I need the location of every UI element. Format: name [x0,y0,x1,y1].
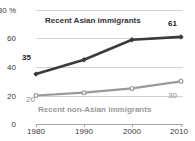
nonasian-point-1990 [82,91,86,95]
line-chart: 80 % 60 40 20 0 1980 1990 2000 2010 Rece… [0,0,195,141]
nonasian-point-2010 [179,79,183,83]
data-label-nonasian-1980: 20 [26,95,35,104]
series-label-asian: Recent Asian immigrants [45,16,141,25]
data-label-asian-2010: 61 [168,19,177,28]
data-label-nonasian-2010: 30 [168,91,177,100]
asian-line [36,37,181,74]
nonasian-line [36,81,181,95]
series-label-nonasian: Recent non-Asian immigrants [38,105,151,114]
nonasian-point-2000 [130,87,134,91]
asian-point-2010 [178,34,183,39]
cutoff-caption [0,134,195,141]
data-label-asian-1980: 35 [22,53,31,62]
